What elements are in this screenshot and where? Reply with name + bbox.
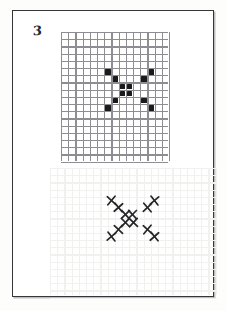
page-frame: 3 [12, 10, 214, 297]
pattern-grid-filled [61, 32, 168, 161]
grid-cell-filled [105, 69, 111, 75]
grid-cell-filled [105, 105, 111, 111]
grid-cell-filled [113, 76, 119, 82]
grid-line-vertical [169, 32, 170, 161]
grid-cell-filled [113, 98, 119, 104]
x-mark-icon [127, 216, 138, 227]
grid-line-horizontal [50, 298, 217, 299]
x-mark-icon [141, 202, 152, 213]
x-mark-icon [149, 231, 161, 243]
grid-cell-filled [141, 98, 147, 104]
x-mark-icon [105, 230, 117, 242]
grid-cell-filled [120, 84, 126, 90]
worksheet-page: 3 [0, 0, 227, 311]
sheet-number-label: 3 [33, 24, 43, 37]
grid-filled-cells [61, 32, 168, 161]
grid-cell-filled [141, 76, 147, 82]
grid-cell-filled [120, 91, 126, 97]
grid-cell-filled [149, 105, 155, 111]
grid-cell-filled [149, 69, 155, 75]
grid-cell-filled [127, 91, 133, 97]
grid-cell-filled [127, 84, 133, 90]
grid-x-marks [50, 168, 217, 295]
pattern-grid-marks [50, 168, 217, 295]
grid-line-horizontal [61, 162, 168, 163]
